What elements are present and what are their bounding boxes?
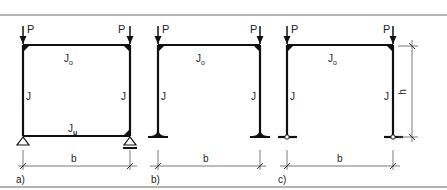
portal-frames-diagram: P P Jo J J Ju b a) [0,0,447,190]
svg-text:J: J [384,91,389,102]
panel-caption: b) [151,174,160,185]
panel-b: P P Jo J J b b) [148,23,270,185]
hinge-support-icon [278,135,297,139]
top-beam-label: Jo [328,53,337,66]
panel-c: P P Jo J J b c) h [278,23,418,185]
roller-support-icon [123,137,137,148]
fixed-support-icon [250,128,270,137]
svg-text:P: P [291,23,298,35]
svg-text:J: J [290,91,295,102]
load-arrow-icon [20,26,27,44]
pin-support-icon [17,137,29,145]
load-arrow-icon [257,26,264,44]
top-beam-label: Jo [64,53,73,66]
column-label: J [121,91,126,102]
bottom-beam-label: Ju [68,123,77,136]
haunch-icon [23,45,30,52]
svg-text:b: b [203,153,209,164]
svg-text:P: P [383,23,390,35]
svg-text:P: P [250,23,257,35]
height-label: h [397,89,408,95]
svg-text:J: J [161,91,166,102]
haunch-icon [253,45,260,52]
load-arrow-icon [284,26,291,44]
load-arrow-icon [390,26,397,44]
column-label: J [26,91,31,102]
fixed-support-icon [148,128,168,137]
load-arrow-icon [127,26,134,44]
svg-text:J: J [251,91,256,102]
height-dimension: h [397,40,418,142]
haunch-icon [123,129,130,136]
svg-text:b: b [337,153,343,164]
load-label: P [27,23,34,35]
load-arrow-icon [155,26,162,44]
panel-a: P P Jo J J Ju b a) [16,23,137,185]
load-label: P [118,23,125,35]
top-beam-label: Jo [196,53,205,66]
svg-text:P: P [162,23,169,35]
panel-caption: c) [278,174,286,185]
span-label: b [71,153,77,164]
panel-caption: a) [16,174,25,185]
